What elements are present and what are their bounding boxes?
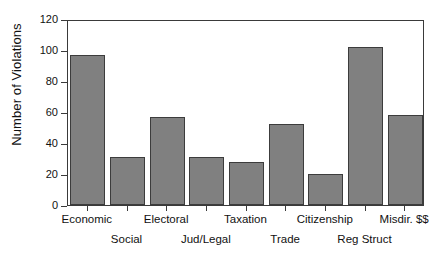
x-axis-tick-mark [166, 206, 167, 211]
y-axis-tick-mark [61, 206, 67, 207]
bars-container [68, 21, 423, 205]
x-axis-tick-mark [285, 206, 286, 211]
bar-chart: Number of Violations 020406080100120 Eco… [0, 0, 445, 261]
y-axis-tick-label-text: 80 [8, 76, 58, 87]
x-axis-tick-label: Social [111, 233, 142, 245]
y-axis-title: Number of Violations [9, 0, 24, 185]
x-axis-tick-label: Citizenship [297, 213, 353, 225]
y-axis-tick-label-text: 40 [8, 138, 58, 149]
bar [229, 162, 264, 205]
x-axis-tick-mark [404, 206, 405, 211]
bar [348, 47, 383, 205]
y-axis-tick-label: 60 [8, 107, 58, 118]
x-axis-tick-label: Misdir. $$ [380, 213, 429, 225]
x-axis-tick-label: Electoral [144, 213, 189, 225]
y-axis-tick-label: 0 [8, 200, 58, 211]
bar [189, 157, 224, 205]
x-axis-tick-label: Economic [62, 213, 113, 225]
y-axis-tick-label-text: 20 [8, 169, 58, 180]
y-axis-tick-label-text: 100 [8, 45, 58, 56]
x-axis-tick-mark [246, 206, 247, 211]
y-axis-tick-label: 20 [8, 169, 58, 180]
x-axis-tick-mark [127, 206, 128, 211]
x-axis-tick-label: Jud/Legal [181, 233, 231, 245]
bar [150, 117, 185, 205]
y-axis-tick-label: 80 [8, 76, 58, 87]
y-axis-tick-label-text: 120 [8, 14, 58, 25]
y-axis-tick-label: 40 [8, 138, 58, 149]
bar [110, 157, 145, 205]
y-axis-tick-label-text: 0 [8, 200, 58, 211]
bar [70, 55, 105, 205]
x-axis-tick-label: Reg Struct [337, 233, 391, 245]
x-axis-tick-mark [87, 206, 88, 211]
y-axis-tick-label: 100 [8, 45, 58, 56]
x-axis-tick-mark [365, 206, 366, 211]
plot-area [67, 20, 424, 206]
x-axis-tick-label: Taxation [224, 213, 267, 225]
x-axis-tick-label: Trade [270, 233, 300, 245]
bar [269, 124, 304, 205]
y-axis-tick-label: 120 [8, 14, 58, 25]
y-axis-tick-label-text: 60 [8, 107, 58, 118]
bar [308, 174, 343, 205]
bar [388, 115, 423, 205]
x-axis-tick-mark [325, 206, 326, 211]
x-axis-tick-mark [206, 206, 207, 211]
